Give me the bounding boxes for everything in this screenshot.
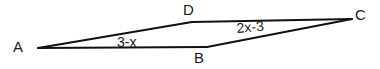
geometry-figure: A B C D 3-x 2x-3 bbox=[0, 0, 380, 69]
vertex-label-a: A bbox=[13, 39, 23, 54]
side-label-dc: 2x-3 bbox=[236, 19, 264, 35]
side-label-ab: 3-x bbox=[117, 35, 136, 49]
vertex-label-b: B bbox=[194, 50, 204, 65]
vertex-label-c: C bbox=[355, 7, 366, 22]
vertex-label-d: D bbox=[183, 2, 194, 17]
